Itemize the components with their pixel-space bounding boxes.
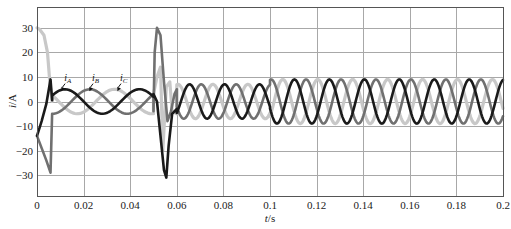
x-tick-label: 0.06 [167,199,187,211]
current-waveform-chart: 3020100−10−20−30 00.020.040.060.080.10.1… [0,0,511,229]
x-tick-label: 0.02 [74,199,93,211]
x-axis-label: t/s [265,212,275,224]
y-axis-label: i/A [6,94,18,108]
y-tick-label: 0 [28,96,34,108]
y-tick-label: −30 [16,169,34,181]
x-axis-label-unit: /s [268,212,275,224]
y-tick-label: 20 [22,46,34,58]
x-tick-label: 0.04 [121,199,141,211]
x-tick-label: 0.14 [354,199,374,211]
y-tick-label: 10 [22,71,34,83]
y-tick-label: −10 [16,120,34,132]
y-axis-label-unit: /A [6,94,18,105]
x-tick-label: 0.2 [496,199,510,211]
x-tick-label: 0.1 [263,199,277,211]
x-tick-label: 0.08 [214,199,234,211]
y-tick-label: −20 [16,145,34,157]
y-tick-label: 30 [22,22,34,34]
x-tick-label: 0 [34,199,40,211]
x-tick-label: 0.12 [307,199,326,211]
x-tick-label: 0.18 [447,199,467,211]
x-tick-label: 0.16 [400,199,420,211]
